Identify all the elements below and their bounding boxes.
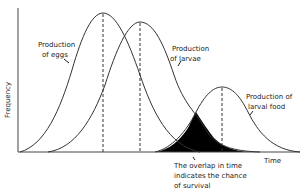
annotation-line-3: of survival [174,182,210,190]
larval-food-label-line-2: larval food [248,103,285,111]
eggs-curve [20,13,200,152]
y-axis-label: Frequency [4,82,12,118]
larvae-curve [48,22,260,152]
annotation-line-1: The overlap in time [173,162,242,170]
overlap-diagram: Frequency Time Production of eggs Produc… [0,0,304,192]
annotation-line-2: indicates the chance [174,172,247,180]
larvae-label-line-1: Production [172,45,209,53]
larval-food-label-arrow [250,111,253,115]
annotation-arrow [193,157,195,160]
eggs-label-arrow [64,59,69,63]
x-axis-label: Time [263,157,281,165]
larvae-label-line-2: of larvae [170,55,201,63]
eggs-label-line-2: of eggs [42,51,68,59]
eggs-label-line-1: Production [38,41,75,49]
larval-food-label-line-1: Production of [246,93,293,101]
